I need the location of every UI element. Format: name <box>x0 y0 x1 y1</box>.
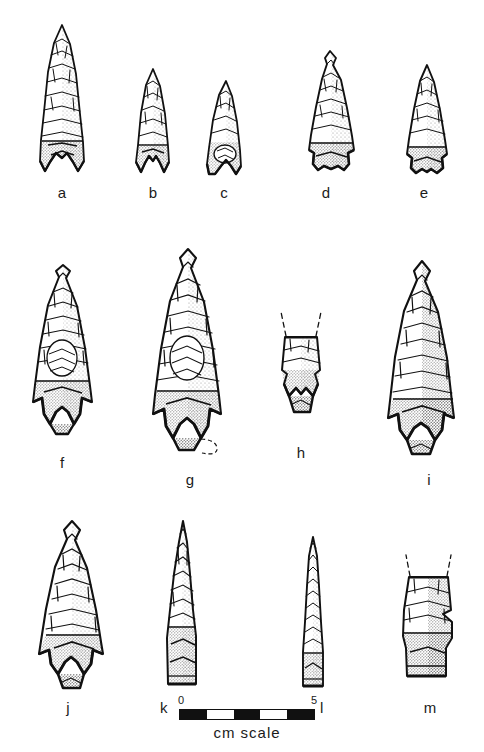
artifact-label-e: e <box>404 185 444 200</box>
artifact-label-i: i <box>409 472 449 487</box>
artifact-label-j: j <box>48 700 88 715</box>
artifact-i <box>378 258 464 468</box>
artifact-g <box>140 246 234 468</box>
scale-bar: 0 5 cm scale <box>179 709 315 721</box>
scale-segment-4 <box>260 710 287 719</box>
scale-segment-5 <box>287 710 314 719</box>
scale-segment-3 <box>234 710 261 719</box>
scale-caption: cm scale <box>179 724 315 741</box>
artifact-label-g: g <box>170 472 210 487</box>
artifact-d <box>300 48 362 182</box>
scale-tick-zero: 0 <box>178 695 184 706</box>
artifact-a <box>34 22 90 182</box>
artifact-f <box>22 262 102 448</box>
artifact-b <box>130 66 176 182</box>
artifact-k <box>156 518 206 694</box>
artifact-label-b: b <box>133 185 173 200</box>
artifact-label-a: a <box>42 185 82 200</box>
artifact-label-d: d <box>306 185 346 200</box>
artifact-j <box>28 518 114 694</box>
artifact-label-c: c <box>204 185 244 200</box>
artifact-label-f: f <box>42 455 82 470</box>
artifact-l <box>292 534 334 694</box>
artifact-h <box>268 308 334 436</box>
scale-segment-2 <box>207 710 234 719</box>
artifact-label-k: k <box>160 700 180 715</box>
scale-segment-1 <box>180 710 207 719</box>
artifact-c <box>200 78 248 182</box>
lithic-artifact-plate: a b c d e f g h <box>0 0 484 752</box>
scale-tick-five: 5 <box>311 695 317 706</box>
artifact-e <box>398 62 456 182</box>
artifact-label-h: h <box>281 445 321 460</box>
artifact-label-m: m <box>410 700 450 715</box>
artifact-m <box>390 552 468 702</box>
artifact-label-l: l <box>320 700 340 715</box>
scale-bar-segments <box>179 709 315 720</box>
